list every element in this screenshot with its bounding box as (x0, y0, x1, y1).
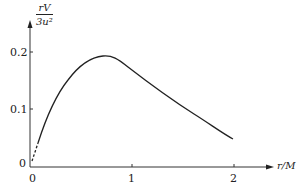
chart-plot (0, 0, 302, 191)
y-tick-label: 0.1 (10, 103, 28, 116)
curve-line (38, 56, 233, 143)
x-tick-label: 2 (230, 172, 237, 185)
x-axis-label: r/M (277, 160, 295, 171)
x-tick-label: 1 (128, 172, 135, 185)
dashed-curve (32, 143, 38, 161)
y-axis-label: rV 3u² (36, 2, 53, 28)
x-tick-label: 0 (29, 172, 36, 185)
y-tick-label: 0.2 (10, 46, 28, 59)
x-axis-arrow-icon (266, 165, 274, 170)
y-axis-arrow-icon (28, 20, 33, 28)
y-tick-label: 0 (19, 157, 26, 170)
